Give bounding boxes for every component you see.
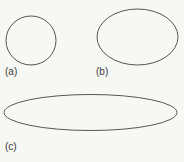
circle-shape-a <box>6 16 56 65</box>
panel-label-a: (a) <box>5 67 17 77</box>
panel-label-c: (c) <box>5 142 17 152</box>
ellipse-shape-b <box>97 9 178 65</box>
panel-label-b: (b) <box>96 67 108 77</box>
ellipse-shape-c <box>4 95 177 131</box>
ellipse-figure <box>0 0 184 162</box>
